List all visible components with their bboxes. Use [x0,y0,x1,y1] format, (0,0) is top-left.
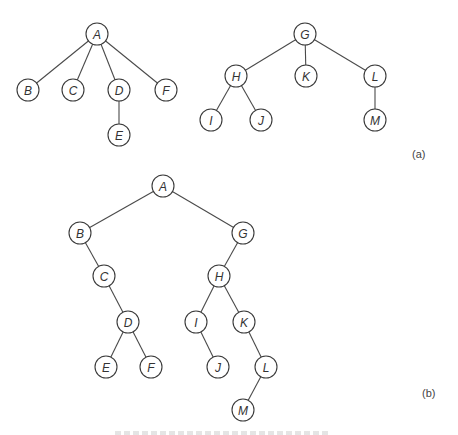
node-label: J [214,361,222,375]
node-b-I: I [185,311,207,333]
node-label: E [115,129,124,143]
part-label-b: (b) [422,387,435,399]
node-a-H: H [225,65,247,87]
node-a-J: J [250,109,272,131]
figure-caption-cropped [115,431,330,435]
node-label: G [238,227,247,241]
node-label: H [215,270,224,284]
node-b-E: E [95,356,117,378]
node-label: G [300,28,309,42]
tree-diagram: ABCDFEGHKLIJMABGCHDIKEFJLM (a) (b) [0,0,458,435]
node-b-K: K [233,311,255,333]
nodes-layer: ABCDFEGHKLIJMABGCHDIKEFJLM [17,23,386,421]
node-label: L [372,70,379,84]
node-a-D: D [108,79,130,101]
node-label: A [92,28,101,42]
node-a-E: E [108,124,130,146]
node-label: E [102,361,111,375]
node-label: B [24,84,32,98]
node-label: C [69,84,78,98]
node-a-L: L [364,65,386,87]
node-label: A [158,180,167,194]
node-a-K: K [295,65,317,87]
node-b-A: A [152,175,174,197]
edge-a-G-H [236,34,305,76]
node-b-M: M [232,399,254,421]
node-a-M: M [364,109,386,131]
node-b-L: L [255,356,277,378]
node-b-C: C [93,265,115,287]
node-a-B: B [17,79,39,101]
node-label: F [162,84,170,98]
node-label: C [100,270,109,284]
node-a-F: F [155,79,177,101]
edge-b-A-G [163,186,243,233]
node-a-G: G [294,23,316,45]
node-label: J [257,114,265,128]
node-label: M [370,114,380,128]
node-label: M [238,404,248,418]
part-labels-layer: (a) (b) [412,148,435,399]
node-b-J: J [207,356,229,378]
node-label: K [240,316,249,330]
node-b-B: B [69,222,91,244]
node-a-I: I [200,109,222,131]
edge-a-A-F [97,34,166,90]
node-label: K [302,70,311,84]
node-b-H: H [208,265,230,287]
node-a-C: C [62,79,84,101]
node-label: F [147,361,155,375]
edge-a-A-B [28,34,97,90]
edge-b-A-B [80,186,163,233]
node-label: D [115,84,124,98]
node-label: B [76,227,84,241]
node-label: D [124,316,133,330]
node-label: L [263,361,270,375]
part-label-a: (a) [412,148,425,160]
node-b-G: G [232,222,254,244]
node-label: H [232,70,241,84]
node-b-D: D [117,311,139,333]
node-a-A: A [86,23,108,45]
node-b-F: F [140,356,162,378]
